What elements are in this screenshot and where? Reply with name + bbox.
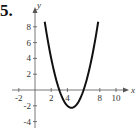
graph: x y -224810 -4-22468 [0,0,137,130]
x-axis-label: x [130,85,135,95]
x-tick-label: 4 [65,93,70,103]
x-tick-label: 10 [112,93,122,103]
x-tick-label: 2 [49,93,54,103]
x-tick-label: 8 [98,93,103,103]
y-tick-label: 4 [27,53,32,63]
x-axis-arrow-icon [123,88,129,93]
x-tick-label: -2 [15,93,23,103]
y-tick-label: 2 [27,69,32,79]
y-tick-label: 6 [27,38,32,48]
y-tick-label: -2 [24,101,32,111]
y-axis-label: y [36,0,41,10]
y-tick-label: 8 [27,22,32,32]
y-tick-label: -4 [24,117,32,127]
